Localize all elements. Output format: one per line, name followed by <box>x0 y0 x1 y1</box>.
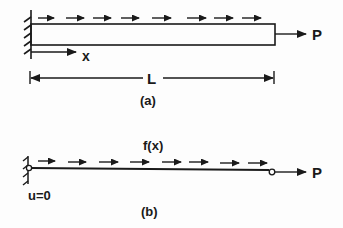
bar-rectangle <box>31 24 275 45</box>
caption-b: (b) <box>141 204 158 219</box>
bar-line <box>30 168 269 170</box>
right-node-icon <box>269 169 275 175</box>
left-node-icon <box>26 165 31 170</box>
load-function-label: f(x) <box>143 138 163 153</box>
distributed-load-arrows-b <box>38 161 267 163</box>
figure-a: P x L (a) <box>24 10 322 108</box>
force-p-label-b: P <box>312 164 322 181</box>
caption-a: (a) <box>140 93 156 108</box>
axial-bar-diagram: P x L (a) <box>0 0 343 228</box>
figure-b: f(x) P u=0 (b) <box>23 138 322 219</box>
boundary-condition-label: u=0 <box>28 188 51 203</box>
length-label: L <box>147 70 156 87</box>
force-p-label: P <box>312 26 322 43</box>
fixed-wall-icon <box>24 10 31 59</box>
x-axis-label: x <box>82 48 90 64</box>
